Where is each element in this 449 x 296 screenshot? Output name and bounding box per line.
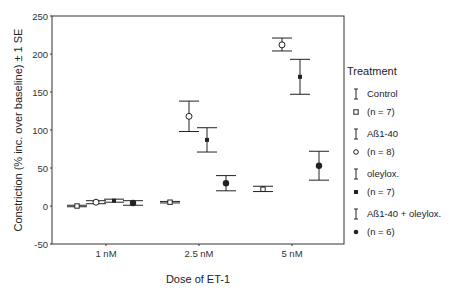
open-square-marker-icon bbox=[168, 200, 172, 204]
data-point bbox=[160, 200, 180, 204]
filled-square-marker-icon bbox=[205, 138, 209, 142]
y-tick-label: 100 bbox=[32, 125, 48, 136]
data-point bbox=[197, 128, 217, 152]
open-circle-marker-icon bbox=[186, 113, 192, 119]
chart: 250200150100500-501 nM2.5 nM5 nM Treatme… bbox=[0, 0, 449, 296]
legend-label: Aß1-40 bbox=[367, 128, 398, 139]
data-point bbox=[309, 151, 329, 180]
legend-n: (n = 7) bbox=[367, 186, 395, 197]
data-point bbox=[253, 186, 273, 191]
legend-n: (n = 8) bbox=[367, 146, 395, 157]
data-point bbox=[272, 38, 292, 51]
open-circle-marker-icon bbox=[279, 42, 285, 48]
legend-item: Aß1-40(n = 8) bbox=[354, 128, 398, 157]
data-point bbox=[123, 200, 143, 206]
data-point bbox=[290, 59, 310, 94]
filled-circle-marker-icon bbox=[130, 200, 136, 206]
data-points bbox=[67, 38, 329, 208]
y-tick-label: 250 bbox=[32, 11, 48, 22]
legend-label: Control bbox=[367, 88, 398, 99]
open-square-marker-icon bbox=[354, 110, 358, 114]
x-tick-label: 2.5 nM bbox=[184, 248, 213, 259]
y-tick-label: -50 bbox=[34, 239, 48, 250]
plot-frame bbox=[52, 16, 344, 244]
legend-label: oleylox. bbox=[367, 168, 399, 179]
legend-label: Aß1-40 + oleylox. bbox=[367, 208, 441, 219]
legend-title: Treatment bbox=[347, 65, 397, 77]
legend-n: (n = 6) bbox=[367, 226, 395, 237]
y-tick-label: 200 bbox=[32, 49, 48, 60]
x-tick-label: 5 nM bbox=[281, 248, 302, 259]
x-axis-title: Dose of ET-1 bbox=[166, 273, 230, 285]
legend-item: Aß1-40 + oleylox.(n = 6) bbox=[354, 208, 442, 237]
legend-item: Control(n = 7) bbox=[354, 88, 398, 117]
legend-n: (n = 7) bbox=[367, 106, 395, 117]
data-point bbox=[104, 199, 124, 203]
filled-circle-marker-icon bbox=[316, 163, 322, 169]
y-axis-title: Constriction (% inc. over baseline) ± 1 … bbox=[12, 29, 24, 232]
filled-circle-marker-icon bbox=[223, 180, 229, 186]
data-point bbox=[86, 199, 106, 205]
filled-square-marker-icon bbox=[354, 190, 358, 194]
data-point bbox=[216, 176, 236, 191]
open-square-marker-icon bbox=[261, 187, 265, 191]
y-tick-label: 50 bbox=[37, 163, 48, 174]
y-tick-label: 0 bbox=[43, 201, 48, 212]
legend: TreatmentControl(n = 7)Aß1-40(n = 8)oley… bbox=[347, 65, 441, 237]
legend-item: oleylox.(n = 7) bbox=[354, 168, 399, 197]
plot-area: 250200150100500-501 nM2.5 nM5 nM bbox=[32, 11, 344, 260]
open-square-marker-icon bbox=[75, 204, 79, 208]
open-circle-marker-icon bbox=[93, 199, 99, 205]
filled-circle-marker-icon bbox=[354, 230, 359, 235]
y-tick-label: 150 bbox=[32, 87, 48, 98]
x-tick-label: 1 nM bbox=[95, 248, 116, 259]
filled-square-marker-icon bbox=[112, 199, 116, 203]
filled-square-marker-icon bbox=[298, 75, 302, 79]
data-point bbox=[179, 101, 199, 131]
data-point bbox=[67, 204, 87, 208]
open-circle-marker-icon bbox=[354, 150, 359, 155]
